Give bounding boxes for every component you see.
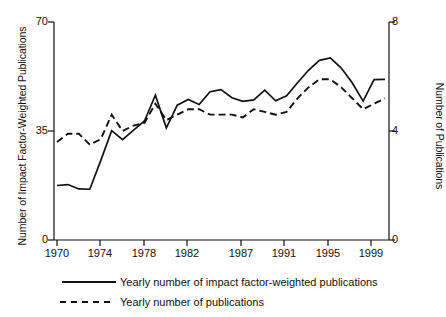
series-impact-factor-weighted: [57, 58, 385, 189]
legend-label-impact-factor-weighted: Yearly number of impact factor-weighted …: [120, 276, 378, 288]
x-axis-ticks: [57, 240, 371, 246]
right-axis-ticks: [389, 22, 395, 240]
left-axis-ticks: [48, 22, 54, 240]
legend-label-publications: Yearly number of publications: [120, 296, 264, 308]
chart-legend: Yearly number of impact factor-weighted …: [58, 272, 438, 312]
legend-key-dashed-line-icon: [58, 296, 120, 308]
legend-item-publications: Yearly number of publications: [58, 292, 438, 312]
legend-item-impact-factor-weighted: Yearly number of impact factor-weighted …: [58, 272, 438, 292]
legend-key-solid-line-icon: [58, 276, 120, 288]
